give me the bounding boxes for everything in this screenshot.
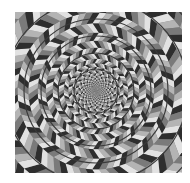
- fraser-spiral-illusion: [15, 12, 182, 173]
